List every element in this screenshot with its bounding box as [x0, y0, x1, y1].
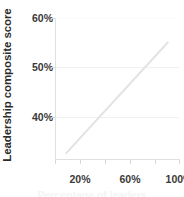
- chart-figure: Leadership composite score 60% 50% 40% 2…: [0, 0, 184, 197]
- x-axis-title-text: Percentage of leaders: [0, 191, 184, 197]
- x-axis-title-clipped: Percentage of leaders: [0, 191, 184, 197]
- trend-line: [66, 42, 167, 153]
- series-layer: [0, 0, 184, 197]
